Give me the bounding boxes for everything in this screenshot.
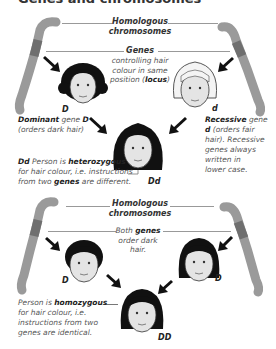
face-child-dark-hair-icon [118,287,166,337]
gene-label-D: D [215,274,222,283]
gene-label-D: D [62,276,69,285]
genotype-label-DD: DD [158,333,171,342]
homozygous-note: Person is homozygous for hair colour, i.… [18,298,113,338]
